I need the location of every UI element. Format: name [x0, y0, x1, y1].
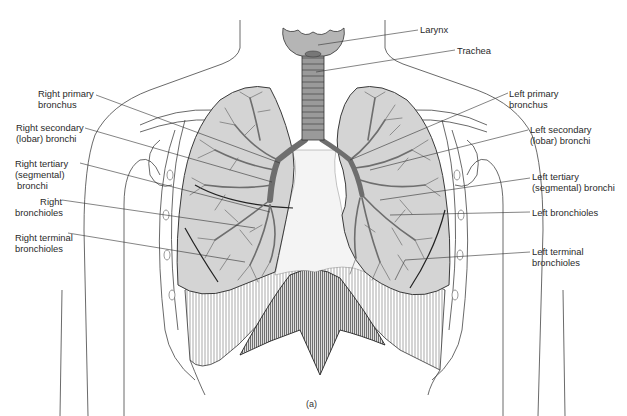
label-text: bronchi — [15, 180, 68, 191]
label-text: Right tertiary — [15, 158, 68, 169]
right-lung — [177, 87, 294, 295]
label-text: Left primary — [509, 88, 559, 99]
label-text: bronchus — [38, 99, 94, 110]
label-right-bronchioles: Right bronchioles — [15, 196, 62, 218]
label-left-primary-bronchus: Left primary bronchus — [509, 88, 559, 110]
label-text: bronchioles — [15, 243, 73, 254]
label-text: Right terminal — [15, 232, 73, 243]
label-text: Larynx — [420, 24, 448, 35]
label-left-secondary-bronchi: Left secondary (lobar) bronchi — [530, 124, 592, 146]
label-text: bronchioles — [532, 257, 584, 268]
label-right-tertiary-bronchi: Right tertiary (segmental) bronchi — [15, 158, 68, 191]
label-left-bronchioles: Left bronchioles — [532, 207, 598, 218]
label-text: Right secondary — [16, 122, 84, 133]
label-text: bronchioles — [15, 207, 62, 218]
label-text: (segmental) bronchi — [532, 182, 615, 193]
trachea — [302, 52, 324, 140]
figure-caption: (a) — [306, 399, 317, 409]
larynx-ring — [305, 51, 321, 57]
label-larynx: Larynx — [420, 24, 448, 35]
label-left-tertiary-bronchi: Left tertiary (segmental) bronchi — [532, 171, 615, 193]
label-text: Left bronchioles — [532, 207, 598, 218]
label-text: bronchus — [509, 99, 559, 110]
label-text: Trachea — [457, 45, 491, 56]
label-text: Left terminal — [532, 246, 584, 257]
respiratory-diagram: Larynx Trachea Right primary bronchus Ri… — [0, 0, 627, 416]
label-text: Right primary — [38, 88, 94, 99]
label-text: Left secondary — [530, 124, 592, 135]
label-left-terminal-bronchioles: Left terminal bronchioles — [532, 246, 584, 268]
label-right-secondary-bronchi: Right secondary (lobar) bronchi — [16, 122, 84, 144]
label-text: Left tertiary — [532, 171, 615, 182]
label-right-primary-bronchus: Right primary bronchus — [38, 88, 94, 110]
label-trachea: Trachea — [457, 45, 491, 56]
label-text: (segmental) — [15, 169, 68, 180]
label-text: Right — [15, 196, 62, 207]
label-right-terminal-bronchioles: Right terminal bronchioles — [15, 232, 73, 254]
label-text: (lobar) bronchi — [16, 133, 84, 144]
label-text: (lobar) bronchi — [530, 135, 592, 146]
